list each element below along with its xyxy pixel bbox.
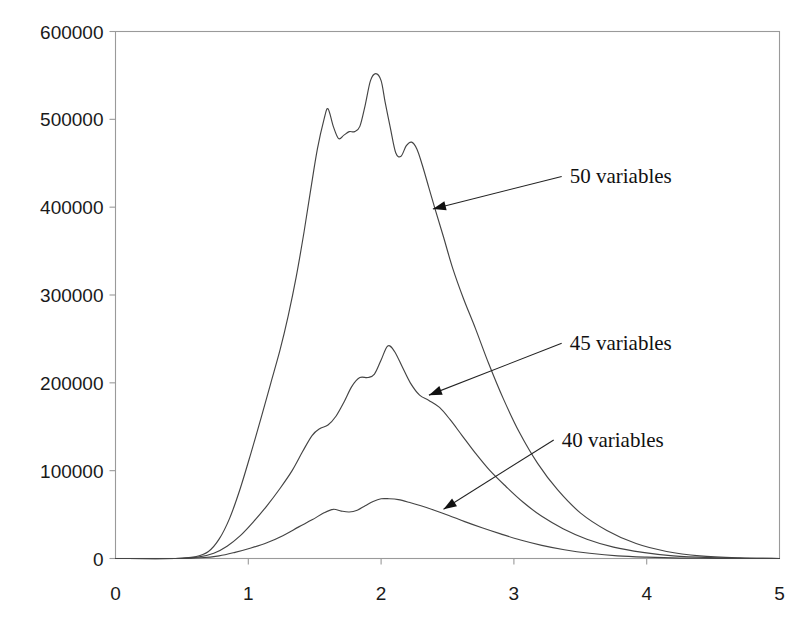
y-axis-tick-label: 600000 bbox=[40, 22, 103, 43]
cropped-caption-remnant bbox=[0, 0, 806, 11]
annotation-leader-line bbox=[433, 176, 562, 208]
annotation-45-variables: 45 variables bbox=[429, 331, 672, 395]
x-axis-tick-label: 1 bbox=[243, 583, 254, 604]
annotation-label: 40 variables bbox=[562, 428, 664, 452]
x-axis-tick-label: 3 bbox=[509, 583, 520, 604]
annotation-arrowhead bbox=[433, 201, 447, 210]
y-axis-tick-label: 400000 bbox=[40, 197, 103, 218]
y-axis-tick-label: 200000 bbox=[40, 373, 103, 394]
annotation-leader-line bbox=[429, 343, 562, 395]
x-axis-tick-label: 0 bbox=[110, 583, 121, 604]
annotation-arrowhead bbox=[444, 498, 457, 509]
series-line-45-variables bbox=[116, 346, 780, 559]
x-axis-tick-label: 5 bbox=[774, 583, 785, 604]
annotation-label: 50 variables bbox=[570, 164, 672, 188]
line-chart: 0100000200000300000400000500000600000012… bbox=[0, 0, 806, 627]
annotation-50-variables: 50 variables bbox=[433, 164, 672, 210]
annotation-label: 45 variables bbox=[570, 331, 672, 355]
annotation-leader-line bbox=[444, 440, 554, 509]
y-axis-tick-label: 500000 bbox=[40, 109, 103, 130]
chart-container: 0100000200000300000400000500000600000012… bbox=[0, 0, 806, 627]
annotation-arrowhead bbox=[429, 386, 443, 395]
y-axis-tick-label: 300000 bbox=[40, 285, 103, 306]
x-axis-tick-label: 2 bbox=[376, 583, 387, 604]
y-axis-tick-label: 0 bbox=[93, 549, 104, 570]
x-axis-tick-label: 4 bbox=[641, 583, 652, 604]
annotation-40-variables: 40 variables bbox=[444, 428, 664, 509]
y-axis-tick-label: 100000 bbox=[40, 461, 103, 482]
series-line-50-variables bbox=[116, 74, 780, 559]
plot-area-border bbox=[116, 32, 780, 559]
